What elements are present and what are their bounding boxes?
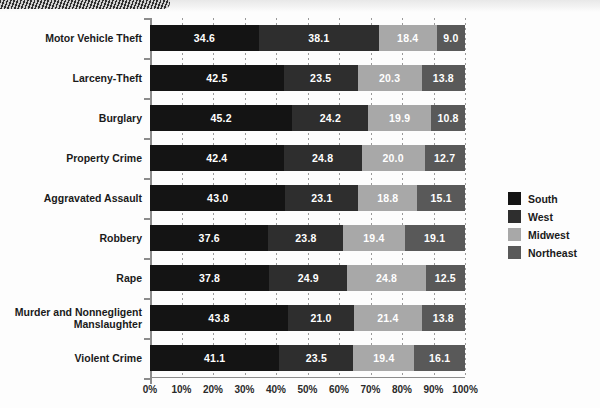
legend-swatch-icon	[508, 228, 521, 241]
bar-row[interactable]: 34.638.118.49.0	[150, 25, 465, 51]
bar-segment-northeast[interactable]: 9.0	[437, 25, 465, 51]
bar-segment-west[interactable]: 24.9	[269, 265, 347, 291]
bar-segment-midwest[interactable]: 20.3	[358, 65, 422, 91]
legend-swatch-icon	[508, 210, 521, 223]
bar-row[interactable]: 42.523.520.313.8	[150, 65, 465, 91]
bar-segment-west[interactable]: 23.8	[268, 225, 343, 251]
legend-swatch-icon	[508, 192, 521, 205]
y-axis-tick	[144, 218, 150, 220]
chart-legend: SouthWestMidwestNortheast	[508, 190, 577, 262]
category-label: Burglary	[0, 112, 142, 125]
bar-segment-west[interactable]: 21.0	[288, 305, 354, 331]
category-label: Motor Vehicle Theft	[0, 32, 142, 45]
bar-segment-midwest[interactable]: 18.8	[358, 185, 417, 211]
bar-segment-south[interactable]: 37.8	[150, 265, 269, 291]
legend-item[interactable]: Midwest	[508, 226, 577, 243]
stacked-bar-chart: 34.638.118.49.042.523.520.313.845.224.21…	[0, 0, 600, 408]
bar-segment-west[interactable]: 24.2	[292, 105, 368, 131]
category-label: Murder and NonnegligentManslaughter	[0, 306, 142, 331]
bar-segment-midwest[interactable]: 18.4	[379, 25, 437, 51]
bar-segment-south[interactable]: 42.4	[150, 145, 284, 171]
category-label: Larceny-Theft	[0, 72, 142, 85]
category-label: Violent Crime	[0, 352, 142, 365]
y-axis-tick	[144, 258, 150, 260]
bar-row[interactable]: 43.023.118.815.1	[150, 185, 465, 211]
bar-segment-midwest[interactable]: 20.0	[362, 145, 425, 171]
legend-item[interactable]: South	[508, 190, 577, 207]
plot-area: 34.638.118.49.042.523.520.313.845.224.21…	[150, 18, 465, 378]
y-axis-tick	[144, 138, 150, 140]
bar-segment-northeast[interactable]: 16.1	[414, 345, 465, 371]
gridline	[465, 18, 466, 378]
bar-segment-midwest[interactable]: 24.8	[347, 265, 425, 291]
y-axis-tick	[144, 58, 150, 60]
bar-segment-midwest[interactable]: 19.9	[368, 105, 431, 131]
bar-row[interactable]: 41.123.519.416.1	[150, 345, 465, 371]
bar-segment-northeast[interactable]: 19.1	[405, 225, 465, 251]
y-axis-tick	[144, 298, 150, 300]
bar-segment-south[interactable]: 34.6	[150, 25, 259, 51]
bar-segment-west[interactable]: 38.1	[259, 25, 379, 51]
x-axis-label: 100%	[445, 384, 485, 395]
legend-item[interactable]: West	[508, 208, 577, 225]
legend-item[interactable]: Northeast	[508, 244, 577, 261]
category-label: Rape	[0, 272, 142, 285]
legend-label: Midwest	[528, 229, 569, 241]
y-axis-tick	[144, 18, 150, 20]
bar-row[interactable]: 43.821.021.413.8	[150, 305, 465, 331]
bar-row[interactable]: 45.224.219.910.8	[150, 105, 465, 131]
bar-segment-south[interactable]: 45.2	[150, 105, 292, 131]
bar-segment-midwest[interactable]: 19.4	[353, 345, 414, 371]
bar-segment-northeast[interactable]: 12.7	[425, 145, 465, 171]
bar-segment-northeast[interactable]: 13.8	[422, 305, 465, 331]
bar-segment-northeast[interactable]: 15.1	[417, 185, 465, 211]
bar-segment-west[interactable]: 24.8	[284, 145, 362, 171]
bar-row[interactable]: 42.424.820.012.7	[150, 145, 465, 171]
bar-segment-midwest[interactable]: 19.4	[343, 225, 404, 251]
bar-segment-west[interactable]: 23.1	[285, 185, 358, 211]
bar-segment-northeast[interactable]: 12.5	[426, 265, 465, 291]
bar-segment-south[interactable]: 37.6	[150, 225, 268, 251]
y-axis-tick	[144, 178, 150, 180]
bar-segment-south[interactable]: 41.1	[150, 345, 279, 371]
bar-segment-northeast[interactable]: 10.8	[431, 105, 465, 131]
category-label: Property Crime	[0, 152, 142, 165]
category-label: Robbery	[0, 232, 142, 245]
bar-row[interactable]: 37.824.924.812.5	[150, 265, 465, 291]
legend-label: West	[528, 211, 553, 223]
y-axis-tick	[144, 338, 150, 340]
y-axis-tick	[144, 98, 150, 100]
bar-segment-south[interactable]: 43.0	[150, 185, 285, 211]
bar-segment-northeast[interactable]: 13.8	[422, 65, 465, 91]
bar-segment-west[interactable]: 23.5	[284, 65, 358, 91]
bar-row[interactable]: 37.623.819.419.1	[150, 225, 465, 251]
legend-swatch-icon	[508, 246, 521, 259]
bar-segment-south[interactable]: 42.5	[150, 65, 284, 91]
legend-label: South	[528, 193, 558, 205]
legend-label: Northeast	[528, 247, 577, 259]
category-label: Aggravated Assault	[0, 192, 142, 205]
bar-segment-west[interactable]: 23.5	[279, 345, 353, 371]
bar-segment-midwest[interactable]: 21.4	[354, 305, 421, 331]
bar-segment-south[interactable]: 43.8	[150, 305, 288, 331]
